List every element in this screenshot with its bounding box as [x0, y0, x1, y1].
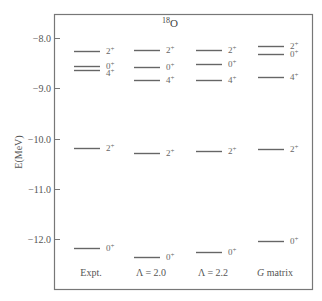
spin-label: 2+: [106, 142, 115, 153]
spin-label: 0+: [166, 251, 175, 262]
spin-label: 2+: [228, 44, 237, 55]
spin-label: 4+: [106, 67, 115, 78]
column-label: Λ = 2.0: [136, 267, 166, 278]
spin-label: 0+: [166, 61, 175, 72]
spin-label: 0+: [106, 242, 115, 253]
spin-label: 2+: [106, 45, 115, 56]
spin-label: 0+: [228, 246, 237, 257]
column-label: Λ = 2.2: [198, 267, 228, 278]
column-label: G matrix: [257, 267, 293, 278]
spin-label: 2+: [166, 147, 175, 158]
spin-label: 0+: [228, 58, 237, 69]
y-axis-label: E(MeV): [13, 135, 25, 168]
chart-title: 18O: [162, 16, 178, 29]
column-2: 2+0+4+2+0+: [196, 44, 237, 257]
y-tick-label: −11.0: [28, 184, 51, 195]
column-labels: Expt.Λ = 2.0Λ = 2.2G matrix: [80, 267, 293, 278]
column-0: 2+0+4+2+0+: [74, 45, 115, 253]
y-tick-label: −9.0: [33, 83, 51, 94]
column-label: Expt.: [80, 267, 101, 278]
y-tick-label: −10.0: [28, 134, 51, 145]
spin-label: 4+: [228, 74, 237, 85]
spin-label: 4+: [166, 74, 175, 85]
y-tick-label: −8.0: [33, 33, 51, 44]
y-tick-label: −12.0: [28, 234, 51, 245]
level-diagram-chart: −8.0−9.0−10.0−11.0−12.0 E(MeV) 18O 2+0+4…: [0, 0, 322, 301]
spin-label: 0+: [290, 235, 299, 246]
title-element: O: [170, 17, 178, 29]
y-axis: −8.0−9.0−10.0−11.0−12.0: [28, 33, 60, 245]
spin-label: 2+: [228, 145, 237, 156]
column-1: 2+0+4+2+0+: [134, 44, 175, 262]
column-3: 2+0+4+2+0+: [258, 40, 299, 247]
spin-label: 0+: [290, 48, 299, 59]
spin-label: 2+: [290, 143, 299, 154]
title-mass-number: 18: [162, 16, 170, 25]
levels-group: 2+0+4+2+0+2+0+4+2+0+2+0+4+2+0+2+0+4+2+0+: [74, 40, 299, 262]
spin-label: 4+: [290, 71, 299, 82]
spin-label: 2+: [166, 44, 175, 55]
